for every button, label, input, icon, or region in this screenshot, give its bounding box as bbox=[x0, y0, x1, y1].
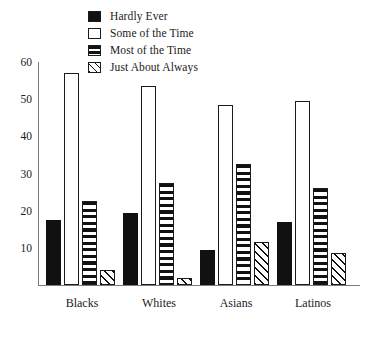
bar-just-about-always bbox=[254, 242, 269, 285]
y-axis-tick-label: 30 bbox=[21, 168, 33, 180]
y-axis-line bbox=[38, 62, 39, 286]
bar-group-whites: Whites bbox=[123, 62, 195, 285]
bars-container bbox=[46, 62, 118, 285]
x-axis-category-label: Latinos bbox=[277, 296, 349, 310]
empty-white-swatch-icon bbox=[88, 28, 101, 39]
x-axis-line bbox=[38, 285, 360, 286]
bars-container bbox=[123, 62, 195, 285]
bar-hardly-ever bbox=[46, 220, 61, 285]
solid-black-swatch-icon bbox=[88, 11, 101, 22]
bar-hardly-ever bbox=[123, 213, 138, 285]
bar-most-of-the-time bbox=[313, 188, 328, 285]
y-axis-tick-label: 50 bbox=[21, 93, 33, 105]
bars-container bbox=[200, 62, 272, 285]
x-axis-category-label: Whites bbox=[123, 296, 195, 310]
bar-group-latinos: Latinos bbox=[277, 62, 349, 285]
bar-most-of-the-time bbox=[159, 183, 174, 285]
bar-most-of-the-time bbox=[236, 164, 251, 285]
bar-some-of-the-time bbox=[295, 101, 310, 285]
legend-item-most-of-the-time: Most of the Time bbox=[88, 42, 288, 59]
plot-area: 102030405060 BlacksWhitesAsiansLatinos bbox=[38, 62, 360, 286]
legend-item-label: Some of the Time bbox=[110, 27, 194, 40]
y-axis-tick-label: 60 bbox=[21, 56, 33, 68]
x-axis-category-label: Asians bbox=[200, 296, 272, 310]
bar-group-blacks: Blacks bbox=[46, 62, 118, 285]
bar-some-of-the-time bbox=[64, 73, 79, 285]
bars-container bbox=[277, 62, 349, 285]
legend-item-label: Most of the Time bbox=[110, 44, 191, 57]
y-axis-tick-label: 10 bbox=[21, 242, 33, 254]
bar-chart: Hardly Ever Some of the Time Most of the… bbox=[0, 0, 368, 339]
legend-item-some-of-the-time: Some of the Time bbox=[88, 25, 288, 42]
bar-hardly-ever bbox=[200, 250, 215, 285]
y-axis-tick-label: 40 bbox=[21, 130, 33, 142]
legend-item-hardly-ever: Hardly Ever bbox=[88, 8, 288, 25]
bar-hardly-ever bbox=[277, 222, 292, 285]
y-axis-tick-label: 20 bbox=[21, 205, 33, 217]
bar-most-of-the-time bbox=[82, 201, 97, 285]
bar-group-asians: Asians bbox=[200, 62, 272, 285]
bar-just-about-always bbox=[177, 278, 192, 285]
bar-some-of-the-time bbox=[141, 86, 156, 285]
bar-some-of-the-time bbox=[218, 105, 233, 285]
legend-item-label: Hardly Ever bbox=[110, 10, 168, 23]
bar-just-about-always bbox=[331, 253, 346, 285]
x-axis-category-label: Blacks bbox=[46, 296, 118, 310]
bar-just-about-always bbox=[100, 270, 115, 285]
horizontal-stripes-swatch-icon bbox=[88, 45, 101, 56]
